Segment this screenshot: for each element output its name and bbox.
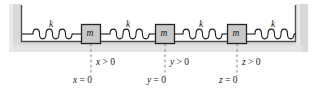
coordinate-z-equality-rest: = 0 [223,75,238,85]
coordinate-x-equality: x = 0 [73,76,92,86]
spring-2-label: k [126,20,130,30]
coordinate-x-inequality: x > 0 [96,58,115,68]
spring-1-label: k [49,20,53,30]
coordinate-y-inequality-rest: > 0 [174,57,189,67]
mass-2-label: m [161,29,168,39]
mass-1-label: m [87,29,94,39]
floor-highlight [13,45,303,52]
spring-3-label: k [199,20,203,30]
coordinate-y-inequality: y > 0 [170,58,189,68]
spring-4-label: k [271,20,275,30]
left-wall-highlight [9,4,13,52]
coordinate-z-inequality: z > 0 [242,58,261,68]
oscillator-figure: k k k k m m m x > 0 x = 0 y > 0 y = 0 z … [0,0,317,95]
coordinate-z-equality: z = 0 [219,76,238,86]
coordinate-y-equality-rest: = 0 [151,75,166,85]
coordinate-x-equality-rest: = 0 [77,75,92,85]
coordinate-y-equality: y = 0 [147,76,166,86]
mass-3-label: m [233,29,240,39]
coordinate-z-inequality-rest: > 0 [246,57,261,67]
coordinate-x-inequality-rest: > 0 [100,57,115,67]
right-wall-highlight [296,4,300,52]
